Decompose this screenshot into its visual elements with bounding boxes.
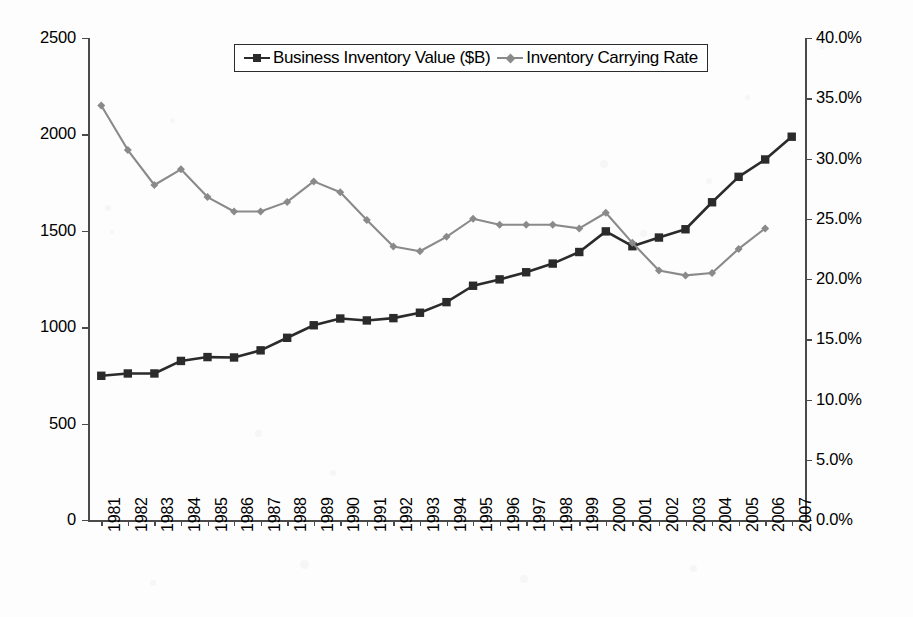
series-point-marker	[416, 247, 424, 255]
series-point-marker	[496, 221, 504, 229]
series-point-marker	[230, 353, 238, 361]
series-point-marker	[97, 372, 105, 380]
series-point-marker	[495, 275, 503, 283]
series-point-marker	[575, 248, 583, 256]
series-point-marker	[310, 321, 318, 329]
series-point-marker	[177, 357, 185, 365]
series-layer	[0, 0, 913, 617]
series-point-marker	[124, 369, 132, 377]
series-point-marker	[522, 221, 530, 229]
chart-container: 05001000150020002500 0.0%5.0%10.0%15.0%2…	[0, 0, 913, 617]
legend-entry-carrying-rate: Inventory Carrying Rate	[490, 48, 697, 67]
series-point-marker	[150, 369, 158, 377]
series-point-marker	[522, 268, 530, 276]
series-point-marker	[442, 298, 450, 306]
series-point-marker	[230, 208, 238, 216]
series-point-marker	[469, 282, 477, 290]
series-line	[101, 137, 791, 376]
series-point-marker	[681, 225, 689, 233]
legend-label-carrying-rate: Inventory Carrying Rate	[526, 48, 697, 67]
legend-label-inventory-value: Business Inventory Value ($B)	[273, 48, 490, 67]
series-line	[101, 105, 765, 275]
series-point-marker	[257, 208, 265, 216]
series-point-marker	[602, 227, 610, 235]
chart-legend: Business Inventory Value ($B) Inventory …	[234, 44, 708, 72]
series-point-marker	[283, 334, 291, 342]
series-point-marker	[203, 353, 211, 361]
series-point-marker	[256, 346, 264, 354]
series-point-marker	[655, 233, 663, 241]
series-point-marker	[416, 309, 424, 317]
legend-marker-square-icon	[244, 51, 270, 65]
series-point-marker	[734, 173, 742, 181]
series-point-marker	[788, 133, 796, 141]
series-point-marker	[549, 221, 557, 229]
series-point-marker	[389, 314, 397, 322]
series-point-marker	[336, 314, 344, 322]
series-point-marker	[549, 259, 557, 267]
series-point-marker	[682, 271, 690, 279]
legend-entry-inventory-value: Business Inventory Value ($B)	[244, 48, 490, 67]
series-point-marker	[708, 198, 716, 206]
series-point-marker	[761, 155, 769, 163]
series-point-marker	[363, 316, 371, 324]
legend-marker-diamond-icon	[497, 51, 523, 65]
